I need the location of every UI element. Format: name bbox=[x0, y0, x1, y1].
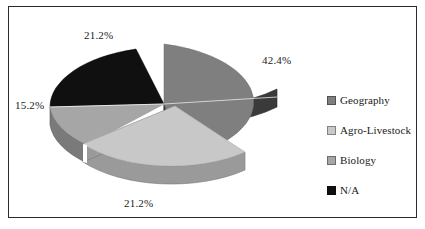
legend-label-biology: Biology bbox=[340, 154, 376, 166]
pie-label-biology: 15.2% bbox=[15, 99, 44, 111]
legend-item-biology[interactable]: Biology bbox=[327, 145, 417, 175]
legend-item-na[interactable]: N/A bbox=[327, 175, 417, 205]
legend-label-geography: Geography bbox=[340, 94, 390, 106]
pie-label-agro-livestock: 21.2% bbox=[124, 197, 153, 209]
legend-swatch-biology bbox=[327, 156, 336, 165]
chart-frame: 42.4% 21.2% 15.2% 21.2% Geography Agro-L… bbox=[8, 6, 417, 218]
pie-slice-na bbox=[50, 49, 164, 107]
explode-gap bbox=[83, 144, 87, 163]
legend-swatch-na bbox=[327, 186, 336, 195]
legend-swatch-agro-livestock bbox=[327, 126, 336, 135]
legend-item-agro-livestock[interactable]: Agro-Livestock bbox=[327, 115, 417, 145]
pie-label-na: 21.2% bbox=[84, 29, 113, 41]
legend-swatch-geography bbox=[327, 96, 336, 105]
pie-label-geography: 42.4% bbox=[262, 54, 291, 66]
legend-label-na: N/A bbox=[340, 184, 359, 196]
legend-label-agro-livestock: Agro-Livestock bbox=[340, 124, 411, 136]
legend-item-geography[interactable]: Geography bbox=[327, 85, 417, 115]
pie-chart-plot-area: 42.4% 21.2% 15.2% 21.2% bbox=[9, 7, 319, 216]
pie-chart-svg bbox=[9, 7, 319, 216]
chart-legend: Geography Agro-Livestock Biology N/A bbox=[327, 85, 417, 205]
